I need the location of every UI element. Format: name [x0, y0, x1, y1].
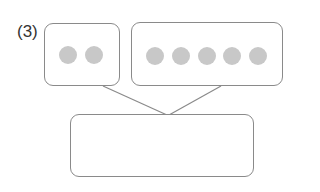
dot-icon — [223, 47, 241, 65]
dot-icon — [249, 47, 267, 65]
dot-icon — [85, 46, 103, 64]
dot-icon — [146, 47, 164, 65]
left-dot-box — [44, 23, 120, 86]
dot-icon — [198, 47, 216, 65]
dot-icon — [172, 47, 190, 65]
answer-box[interactable] — [70, 114, 254, 177]
dot-icon — [59, 46, 77, 64]
right-connector-line — [169, 86, 221, 115]
left-connector-line — [103, 86, 167, 115]
right-dot-box — [131, 22, 283, 86]
